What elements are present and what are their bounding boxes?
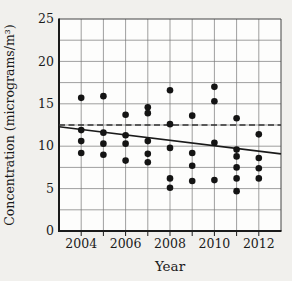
x-tick-label: 2004 [65, 236, 97, 251]
data-point [255, 175, 262, 182]
data-point [189, 112, 196, 119]
x-tick-label: 2010 [198, 236, 230, 251]
data-point [211, 84, 218, 91]
data-point [122, 132, 129, 139]
data-point [145, 138, 152, 145]
data-point [167, 175, 174, 182]
data-point [255, 131, 262, 138]
data-point [233, 146, 240, 153]
scatter-plot-figure: 20042006200820102012 0510152025 Year Con… [0, 0, 292, 281]
data-point [255, 155, 262, 162]
data-point [211, 98, 218, 105]
data-point [233, 188, 240, 195]
data-point [145, 110, 152, 117]
data-point [100, 140, 107, 147]
x-tick-label: 2012 [243, 236, 275, 251]
data-point [78, 127, 85, 134]
data-point [233, 175, 240, 182]
y-tick-label: 15 [38, 96, 54, 111]
data-point [78, 95, 85, 102]
y-tick-label: 20 [38, 54, 54, 69]
x-axis-title: Year [154, 258, 186, 274]
concentration-vs-year-scatter-plot: 20042006200820102012 0510152025 Year Con… [0, 0, 292, 281]
data-point [233, 164, 240, 171]
x-tick-labels: 20042006200820102012 [65, 236, 274, 251]
data-point [122, 112, 129, 119]
data-point [211, 140, 218, 147]
y-tick-label: 5 [46, 181, 54, 196]
data-point [233, 115, 240, 122]
y-tick-label: 10 [38, 138, 54, 153]
data-point [78, 150, 85, 157]
data-point [122, 157, 129, 164]
data-point [145, 104, 152, 111]
data-point [189, 162, 196, 169]
data-point [78, 138, 85, 145]
data-point [233, 153, 240, 160]
data-point [145, 151, 152, 158]
data-point [167, 87, 174, 94]
data-point [189, 150, 196, 157]
data-point [100, 93, 107, 100]
x-tick-label: 2008 [154, 236, 186, 251]
data-point [100, 129, 107, 136]
data-point [255, 165, 262, 172]
data-point [211, 177, 218, 184]
data-point [100, 151, 107, 158]
y-tick-label: 0 [46, 223, 54, 238]
y-tick-label: 25 [38, 11, 54, 26]
y-axis-title: Concentration (micrograms/m³) [2, 24, 17, 226]
data-point [145, 159, 152, 166]
data-point [167, 145, 174, 152]
data-point [122, 140, 129, 147]
x-tick-label: 2006 [110, 236, 142, 251]
data-point [167, 121, 174, 128]
data-point [167, 184, 174, 191]
y-tick-labels: 0510152025 [38, 11, 54, 238]
data-point [189, 178, 196, 185]
